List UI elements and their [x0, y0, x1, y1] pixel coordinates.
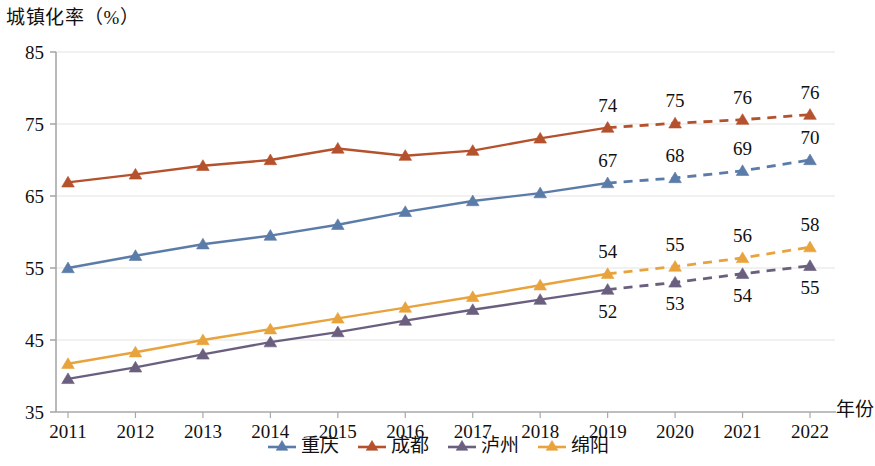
legend-triangle-icon: [546, 440, 558, 450]
series-重庆: 67686970: [62, 127, 820, 273]
data-point-label: 58: [801, 214, 820, 235]
series-line-forecast: [608, 266, 810, 290]
urbanization-rate-chart: 城镇化率（%） 85756555453520112012201320142015…: [0, 0, 875, 466]
y-axis-tick-label: 65: [25, 186, 44, 207]
legend-item-label: 成都: [391, 436, 429, 455]
y-axis-tick-label: 35: [25, 402, 44, 423]
y-axis-tick-label: 85: [25, 42, 44, 63]
series-成都: 74757676: [62, 82, 820, 187]
legend-item-label: 绵阳: [571, 436, 609, 455]
data-point-label: 74: [598, 95, 618, 116]
series-绵阳: 54555658: [62, 214, 820, 368]
chart-legend: 重庆成都泸州绵阳: [0, 436, 875, 455]
data-point-label: 68: [666, 145, 685, 166]
data-point-label: 54: [598, 241, 618, 262]
y-axis-tick-label: 55: [25, 258, 44, 279]
legend-item-重庆[interactable]: 重庆: [267, 436, 339, 455]
data-point-label: 55: [801, 277, 820, 298]
data-point-label: 56: [733, 225, 752, 246]
data-point-label: 76: [733, 87, 752, 108]
x-axis-title: 年份: [836, 394, 874, 421]
legend-marker-icon: [447, 438, 477, 454]
legend-marker-icon: [537, 438, 567, 454]
data-point-label: 70: [801, 127, 820, 148]
legend-item-label: 重庆: [301, 436, 339, 455]
chart-axes: [56, 52, 836, 412]
legend-triangle-icon: [456, 440, 468, 450]
legend-marker-icon: [357, 438, 387, 454]
data-point-label: 52: [598, 301, 617, 322]
legend-marker-icon: [267, 438, 297, 454]
series-line-solid: [68, 128, 608, 183]
legend-item-成都[interactable]: 成都: [357, 436, 429, 455]
data-point-label: 54: [733, 285, 753, 306]
data-point-label: 69: [733, 138, 752, 159]
data-point-label: 55: [666, 234, 685, 255]
legend-item-label: 泸州: [481, 436, 519, 455]
data-point-label: 67: [598, 150, 617, 171]
y-axis-tick-label: 45: [25, 330, 44, 351]
legend-triangle-icon: [366, 440, 378, 450]
data-point-label: 76: [801, 82, 820, 103]
chart-plot-area: 8575655545352011201220132014201520162017…: [0, 0, 875, 466]
series-line-forecast: [608, 115, 810, 128]
data-point-label: 75: [666, 90, 685, 111]
legend-item-泸州[interactable]: 泸州: [447, 436, 519, 455]
y-axis-tick-label: 75: [25, 114, 44, 135]
series-泸州: 52535455: [62, 260, 820, 384]
series-line-forecast: [608, 160, 810, 183]
legend-triangle-icon: [276, 440, 288, 450]
series-line-forecast: [608, 247, 810, 274]
data-point-label: 53: [666, 293, 685, 314]
legend-item-绵阳[interactable]: 绵阳: [537, 436, 609, 455]
